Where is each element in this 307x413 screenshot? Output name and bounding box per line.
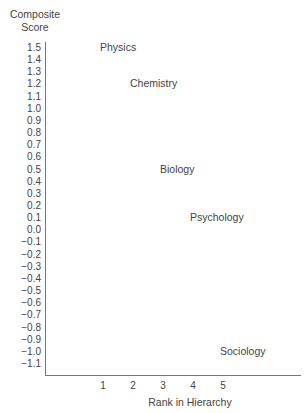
y-tick-label: 1.1 [27, 91, 41, 102]
data-point-label: Chemistry [130, 77, 177, 89]
y-tick-label: 1.4 [27, 54, 41, 65]
y-tick-label: 0.5 [27, 164, 41, 175]
y-tick-label: 1.3 [27, 66, 41, 77]
data-point-label: Biology [160, 163, 194, 175]
data-point-label: Physics [100, 41, 136, 53]
data-point-label: Psychology [190, 211, 244, 223]
x-tick-label: 5 [218, 380, 228, 391]
y-tick-label: −0.8 [21, 322, 41, 333]
y-tick-label: −0.4 [21, 273, 41, 284]
y-axis-title-line-1: Composite [0, 8, 70, 21]
y-tick-label: −0.7 [21, 309, 41, 320]
y-tick-label: 0.4 [27, 176, 41, 187]
y-tick-label: 0.2 [27, 200, 41, 211]
x-tick-label: 1 [98, 380, 108, 391]
data-point-label: Sociology [220, 345, 266, 357]
y-tick-label: −0.5 [21, 285, 41, 296]
y-tick-label: 0.6 [27, 151, 41, 162]
y-tick-label: 0.3 [27, 188, 41, 199]
y-tick-label: 1.5 [27, 42, 41, 53]
y-tick-label: −0.3 [21, 261, 41, 272]
y-tick-label: 1.0 [27, 103, 41, 114]
x-tick-label: 4 [188, 380, 198, 391]
y-axis-title: Composite Score [0, 8, 70, 34]
y-tick-label: 1.2 [27, 78, 41, 89]
y-tick-label: −1.1 [21, 358, 41, 369]
y-tick-label: −0.1 [21, 236, 41, 247]
x-axis-title: Rank in Hierarchy [120, 396, 260, 408]
x-tick-label: 2 [128, 380, 138, 391]
y-tick-label: 0.0 [27, 224, 41, 235]
y-tick-label: −0.9 [21, 334, 41, 345]
y-tick-label: 0.7 [27, 139, 41, 150]
y-axis-title-line-2: Score [0, 21, 70, 34]
x-axis-line [45, 375, 301, 376]
y-tick-label: −1.0 [21, 346, 41, 357]
y-tick-label: 0.9 [27, 115, 41, 126]
x-tick-label: 3 [158, 380, 168, 391]
y-tick-label: 0.8 [27, 127, 41, 138]
y-tick-label: −0.6 [21, 297, 41, 308]
y-axis-line [45, 42, 46, 375]
y-tick-label: 0.1 [27, 212, 41, 223]
y-tick-label: −0.2 [21, 249, 41, 260]
